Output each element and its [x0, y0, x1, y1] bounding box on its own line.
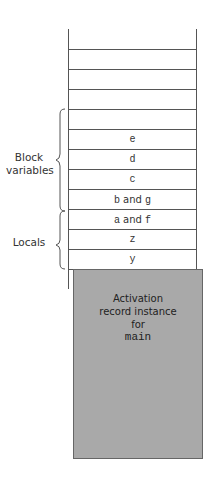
cell-label: y — [129, 254, 135, 265]
cell-z: z — [68, 229, 197, 249]
cell-e: e — [68, 129, 197, 149]
cell-a-and-f: a and f — [68, 209, 197, 229]
locals-brace-icon — [54, 210, 68, 270]
stack-cells: e d c b and g a and f z y x — [68, 49, 197, 289]
block-variables-brace-icon — [54, 108, 68, 212]
ar-label-line: record instance — [74, 305, 202, 318]
activation-record-main: Activation record instance for main — [73, 269, 203, 459]
cell-label: e — [129, 134, 135, 145]
cell-y: y — [68, 249, 197, 269]
cell-d: d — [68, 149, 197, 169]
empty-cell — [68, 109, 197, 129]
cell-label: c — [129, 174, 135, 185]
cell-c: c — [68, 169, 197, 189]
locals-label: Locals — [6, 236, 52, 249]
cell-label-conj: and — [120, 194, 145, 205]
cell-label-var: g — [145, 195, 151, 206]
empty-cell — [68, 49, 197, 69]
block-variables-label: Block variables — [6, 151, 52, 177]
empty-cell — [68, 69, 197, 89]
label-line: Block — [6, 151, 52, 164]
cell-label: z — [129, 234, 135, 245]
cell-label-conj: and — [120, 214, 145, 225]
ar-label-main: main — [74, 331, 202, 344]
ar-label-line: Activation — [74, 292, 202, 305]
empty-cell — [68, 89, 197, 109]
label-line: variables — [6, 164, 52, 177]
cell-b-and-g: b and g — [68, 189, 197, 209]
cell-label: d — [129, 154, 135, 165]
ar-label-line: for — [74, 318, 202, 331]
stack-left-edge — [68, 29, 69, 50]
stack-right-edge — [196, 29, 197, 50]
cell-label-var: f — [145, 215, 151, 226]
